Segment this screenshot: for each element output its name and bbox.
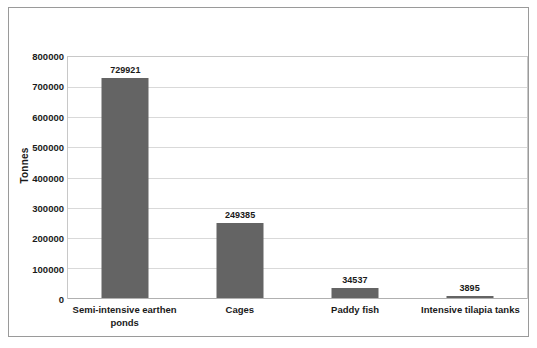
x-axis-label-intensive-tilapia-tanks: Intensive tilapia tanks [413,303,528,316]
bar-slot: 34537 [298,57,413,298]
x-axis-label-semi-intensive-earthen-ponds: Semi-intensive earthen ponds [67,303,182,329]
y-axis-tick-label: 800000 [18,51,64,62]
bars-layer: 729921 249385 34537 3895 [68,57,527,298]
bar-paddy-fish[interactable] [331,288,378,298]
bar-value-label: 249385 [225,210,255,220]
x-axis-category-labels: Semi-intensive earthen ponds Cages Paddy… [67,303,528,343]
y-axis-tick-label: 0 [18,294,64,305]
bar-value-label: 34537 [342,275,367,285]
bar-value-label: 729921 [110,65,140,75]
y-axis-tick-label: 700000 [18,81,64,92]
y-axis-tick-label: 300000 [18,202,64,213]
y-axis-tick-label: 100000 [18,263,64,274]
gridline-zero-baseline [68,298,527,299]
bar-slot: 249385 [183,57,298,298]
x-axis-label-paddy-fish: Paddy fish [298,303,413,316]
bar-semi-intensive-earthen-ponds[interactable] [102,78,149,298]
bar-cages[interactable] [217,223,264,298]
bar-slot: 3895 [412,57,527,298]
bar-slot: 729921 [68,57,183,298]
y-axis-tick-label: 500000 [18,142,64,153]
bar-value-label: 3895 [460,283,480,293]
y-axis-tick-label: 400000 [18,172,64,183]
x-axis-label-cages: Cages [182,303,297,316]
bar-intensive-tilapia-tanks[interactable] [446,296,493,298]
bar-chart-figure: Tonnes 800000 700000 600000 500000 40000… [0,0,537,348]
y-axis-tick-label: 200000 [18,233,64,244]
y-axis-tick-labels: 800000 700000 600000 500000 400000 30000… [18,56,64,299]
y-axis-tick-label: 600000 [18,111,64,122]
plot-area: 729921 249385 34537 3895 [67,56,528,299]
